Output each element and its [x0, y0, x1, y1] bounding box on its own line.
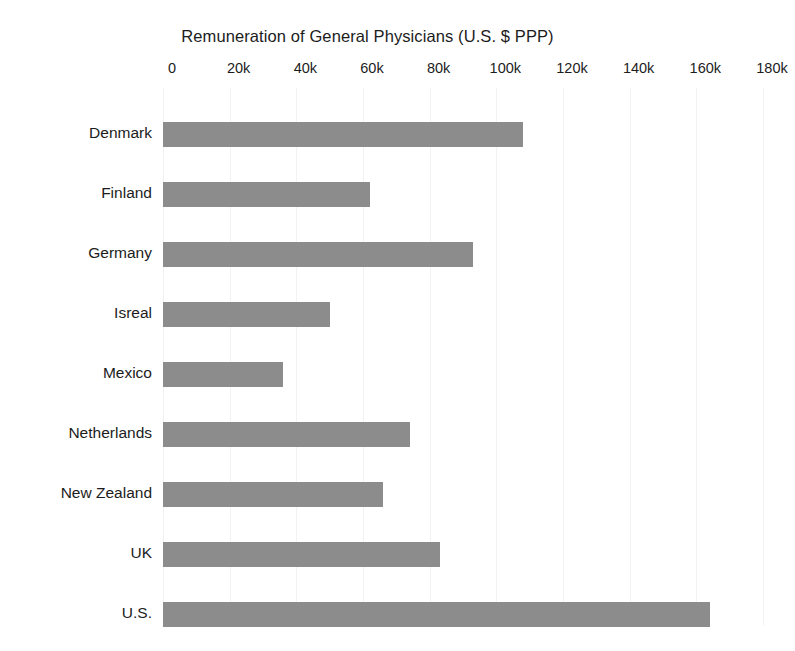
bar [163, 362, 283, 387]
y-axis-category-labels: DenmarkFinlandGermanyIsrealMexicoNetherl… [0, 88, 152, 625]
y-tick-label: Isreal [0, 304, 152, 322]
bar [163, 302, 330, 327]
y-tick-label: Germany [0, 244, 152, 262]
bar [163, 182, 370, 207]
bar-row [163, 388, 763, 448]
y-tick-label: Mexico [0, 364, 152, 382]
chart-title: Remuneration of General Physicians (U.S.… [0, 27, 795, 46]
y-tick-label: UK [0, 544, 152, 562]
x-tick-label: 0 [168, 60, 176, 76]
bar [163, 242, 473, 267]
bar-row [163, 328, 763, 388]
bar-row [163, 208, 763, 268]
gridline [763, 88, 764, 625]
y-tick-label: Denmark [0, 124, 152, 142]
bar [163, 542, 440, 567]
bar [163, 422, 410, 447]
bars-layer [163, 88, 763, 625]
y-tick-label: U.S. [0, 604, 152, 622]
bar-row [163, 448, 763, 508]
y-tick-label: Netherlands [0, 424, 152, 442]
bar-row [163, 508, 763, 568]
x-tick-label: 20k [227, 60, 250, 76]
x-tick-label: 60k [360, 60, 383, 76]
x-tick-label: 100k [490, 60, 521, 76]
bar-row [163, 568, 763, 628]
bar-row [163, 88, 763, 148]
bar [163, 482, 383, 507]
y-tick-label: New Zealand [0, 484, 152, 502]
y-tick-label: Finland [0, 184, 152, 202]
x-tick-label: 180k [756, 60, 787, 76]
x-tick-label: 40k [294, 60, 317, 76]
bar [163, 122, 523, 147]
x-tick-label: 140k [623, 60, 654, 76]
bar [163, 602, 710, 627]
x-tick-label: 120k [556, 60, 587, 76]
bar-row [163, 148, 763, 208]
x-axis-tick-labels: 020k40k60k80k100k120k140k160k180k [0, 60, 795, 82]
x-tick-label: 80k [427, 60, 450, 76]
bar-row [163, 268, 763, 328]
bar-chart: Remuneration of General Physicians (U.S.… [0, 0, 795, 651]
x-tick-label: 160k [690, 60, 721, 76]
